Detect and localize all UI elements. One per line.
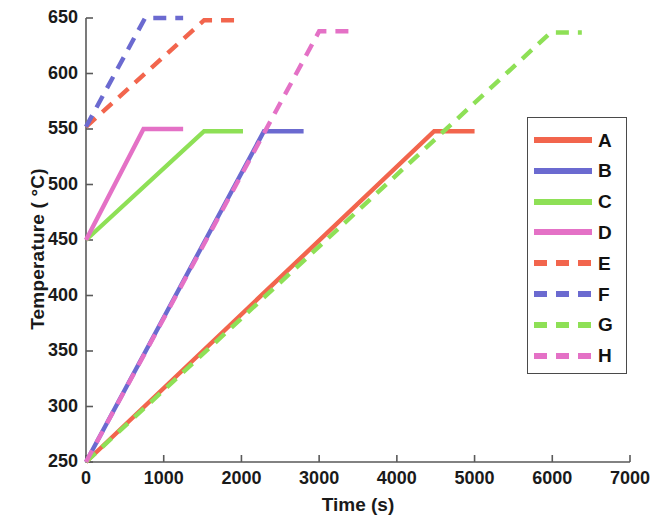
legend-item-d[interactable]: D: [534, 216, 626, 248]
x-axis-title: Time (s): [85, 494, 631, 516]
x-tick-label: 5000: [445, 468, 505, 489]
legend-swatch-a: [534, 137, 592, 143]
legend-label: H: [598, 346, 612, 365]
series-line-f: [86, 18, 183, 127]
x-tick-label: 7000: [600, 468, 657, 489]
legend-swatch-h: [534, 353, 592, 359]
legend-item-e[interactable]: E: [534, 247, 626, 279]
chart-figure: Temperature ( °C) Time (s) 2503003504004…: [0, 0, 657, 524]
series-line-g: [86, 32, 582, 462]
legend-label: A: [598, 131, 612, 150]
legend-swatch-c: [534, 199, 592, 205]
x-tick-label: 3000: [289, 468, 349, 489]
legend-label: D: [598, 223, 612, 242]
series-line-d: [86, 129, 183, 240]
y-tick-label: 350: [22, 340, 78, 361]
legend-item-g[interactable]: G: [534, 309, 626, 341]
x-tick-label: 2000: [211, 468, 271, 489]
legend-label: F: [598, 285, 610, 304]
x-tick-label: 6000: [522, 468, 582, 489]
legend-swatch-g: [534, 322, 592, 328]
y-tick-label: 650: [22, 7, 78, 28]
legend-label: E: [598, 254, 611, 273]
y-tick-label: 450: [22, 229, 78, 250]
legend-item-c[interactable]: C: [534, 186, 626, 218]
legend-label: G: [598, 315, 613, 334]
x-tick-label: 4000: [367, 468, 427, 489]
y-tick-label: 500: [22, 174, 78, 195]
y-tick-label: 600: [22, 63, 78, 84]
series-line-e: [86, 20, 241, 127]
y-tick-label: 550: [22, 118, 78, 139]
legend-label: B: [598, 161, 612, 180]
chart-legend: ABCDEFGH: [527, 117, 627, 374]
series-line-c: [86, 131, 243, 240]
y-tick-label: 300: [22, 396, 78, 417]
legend-swatch-d: [534, 229, 592, 235]
legend-item-f[interactable]: F: [534, 278, 626, 310]
y-tick-label: 400: [22, 285, 78, 306]
legend-item-b[interactable]: B: [534, 155, 626, 187]
legend-swatch-e: [534, 260, 592, 266]
legend-item-h[interactable]: H: [534, 340, 626, 372]
legend-swatch-f: [534, 291, 592, 297]
x-tick-label: 1000: [134, 468, 194, 489]
legend-item-a[interactable]: A: [534, 124, 626, 156]
legend-swatch-b: [534, 168, 592, 174]
legend-label: C: [598, 192, 612, 211]
series-line-a: [86, 131, 475, 462]
x-tick-label: 0: [56, 468, 116, 489]
